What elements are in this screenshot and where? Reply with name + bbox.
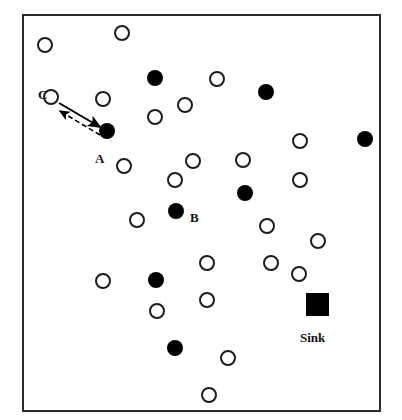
sensor-node[interactable] bbox=[95, 273, 111, 289]
sensor-node[interactable] bbox=[114, 25, 130, 41]
sensor-node[interactable] bbox=[95, 91, 111, 107]
sensor-node[interactable] bbox=[37, 37, 53, 53]
sensor-node[interactable] bbox=[310, 233, 326, 249]
source-node[interactable] bbox=[357, 131, 373, 147]
sensor-node[interactable] bbox=[292, 172, 308, 188]
sensor-node[interactable] bbox=[201, 387, 217, 403]
source-node[interactable] bbox=[258, 84, 274, 100]
source-node[interactable] bbox=[168, 203, 184, 219]
source-node[interactable] bbox=[237, 185, 253, 201]
sensor-node[interactable] bbox=[116, 158, 132, 174]
sensor-node[interactable] bbox=[167, 172, 183, 188]
sensor-node[interactable] bbox=[185, 153, 201, 169]
deployment-field-border bbox=[22, 14, 381, 412]
node-label-a: A bbox=[95, 152, 104, 165]
sensor-node[interactable] bbox=[263, 255, 279, 271]
sensor-node[interactable] bbox=[292, 133, 308, 149]
source-node[interactable] bbox=[167, 340, 183, 356]
node-label-c: C bbox=[38, 88, 47, 101]
sink-label: Sink bbox=[300, 330, 325, 346]
source-node[interactable] bbox=[147, 70, 163, 86]
sensor-node[interactable] bbox=[199, 292, 215, 308]
sensor-node[interactable] bbox=[291, 266, 307, 282]
sensor-node[interactable] bbox=[220, 350, 236, 366]
sensor-node[interactable] bbox=[129, 212, 145, 228]
sensor-node[interactable] bbox=[235, 152, 251, 168]
source-node[interactable] bbox=[148, 272, 164, 288]
source-node[interactable] bbox=[99, 123, 115, 139]
sensor-node[interactable] bbox=[177, 97, 193, 113]
sensor-node[interactable] bbox=[149, 303, 165, 319]
sensor-network-figure: C A B Sink bbox=[0, 0, 402, 420]
sensor-node[interactable] bbox=[259, 218, 275, 234]
sink-node[interactable] bbox=[306, 293, 329, 316]
sensor-node[interactable] bbox=[209, 71, 225, 87]
node-label-b: B bbox=[190, 211, 199, 224]
sensor-node[interactable] bbox=[199, 255, 215, 271]
sensor-node[interactable] bbox=[147, 109, 163, 125]
